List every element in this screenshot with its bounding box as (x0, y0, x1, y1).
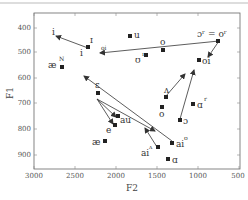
label-i-start: i (52, 27, 55, 37)
label-alpha: ɑ (172, 155, 178, 165)
label-u-I-sup: ɪ (142, 50, 144, 57)
label-wedge: ʌ (163, 85, 170, 95)
label-ae-N: æ (48, 60, 56, 70)
x-tick-label: 1500 (148, 172, 166, 180)
x-tick-labels: 3000 2500 2000 1500 1000 500 (25, 172, 245, 180)
label-o-mid: o (159, 109, 164, 119)
y-tick-labels: 400 500 600 700 800 900 (18, 24, 31, 159)
label-ar-sup: r (204, 95, 207, 102)
y-tick-label: 500 (18, 48, 31, 56)
y-axis-label: F1 (5, 87, 15, 99)
label-e: e (106, 125, 111, 135)
y-axis (34, 28, 240, 155)
label-o-top: o (160, 37, 165, 47)
point-eps (96, 91, 100, 95)
point-o-top (161, 48, 165, 52)
label-or: ɔʳ = oʳ (197, 29, 227, 39)
label-i-low: i (80, 48, 83, 58)
x-axis-label: F2 (126, 183, 138, 193)
point-u-I (144, 53, 148, 57)
point-e (113, 123, 117, 127)
label-open-o: ɔ (183, 116, 188, 126)
point-or (216, 39, 220, 43)
point-ae (103, 139, 107, 143)
label-au: au (120, 115, 131, 125)
data-points (60, 34, 220, 161)
point-ae-N (60, 65, 64, 69)
x-tick-label: 500 (231, 172, 244, 180)
x-tick-label: 2500 (66, 172, 84, 180)
label-ae-N-sup: N (59, 55, 64, 62)
y-tick-label: 800 (18, 125, 31, 133)
label-ai-w-sup: ʌ (148, 143, 153, 150)
label-ai-u-sup: ʊ (184, 134, 188, 141)
x-tick-label: 3000 (25, 172, 43, 180)
label-ae: æ (92, 137, 100, 147)
label-I: ɪ (90, 35, 93, 45)
point-ai-u (170, 141, 174, 145)
label-oi-small: oi (101, 44, 107, 51)
point-u (128, 34, 132, 38)
point-oi (197, 58, 201, 62)
point-alpha (166, 157, 170, 161)
label-u: u (134, 30, 140, 40)
point-labels: ɪ i i oi æ N u o ʊ ɪ ɔʳ = oʳ oi ɛ au e æ… (48, 27, 227, 165)
y-tick-label: 600 (18, 74, 31, 82)
vowel-formant-chart: 3000 2500 2000 1500 1000 500 F2 400 500 … (0, 0, 248, 200)
x-tick-label: 2000 (107, 172, 125, 180)
point-I (86, 45, 90, 49)
arrow-or-oi (208, 41, 219, 57)
y-tick-label: 700 (18, 99, 31, 107)
y-tick-label: 400 (18, 24, 31, 32)
label-u-I: ʊ (135, 55, 141, 65)
label-ar: ɑ (197, 100, 203, 110)
x-tick-label: 1000 (189, 172, 207, 180)
y-tick-label: 900 (18, 151, 31, 159)
point-ar (191, 102, 195, 106)
point-ai-w (156, 145, 160, 149)
label-eps: ɛ (95, 80, 100, 90)
point-wedge (164, 95, 168, 99)
label-oi: oi (202, 56, 210, 66)
arrow-I-to-i (56, 36, 88, 48)
point-open-o (178, 118, 182, 122)
